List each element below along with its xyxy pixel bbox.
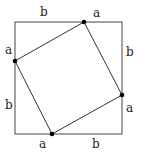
label-left-a: a <box>5 43 12 57</box>
inner-square <box>15 22 122 134</box>
point-top <box>82 20 87 25</box>
label-right-a: a <box>126 101 133 115</box>
label-right-b: b <box>126 45 134 59</box>
label-bottom-a: a <box>39 137 46 151</box>
point-bottom <box>50 132 55 137</box>
pythagoras-diagram: b a b a a b b a <box>0 0 143 157</box>
point-right <box>120 93 125 98</box>
point-left <box>13 59 18 64</box>
label-bottom-b: b <box>92 137 100 151</box>
outer-square <box>15 22 122 134</box>
label-left-b: b <box>5 98 13 112</box>
label-top-b: b <box>40 5 48 19</box>
label-top-a: a <box>93 6 100 20</box>
